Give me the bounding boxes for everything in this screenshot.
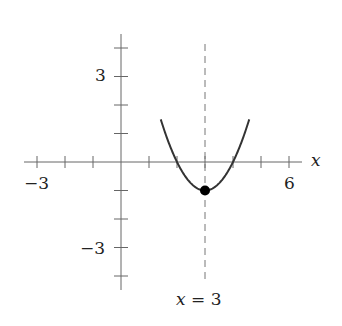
x-tick-label-6: 6 bbox=[284, 173, 295, 193]
symmetry-label-var: x bbox=[176, 289, 186, 309]
symmetry-label-value: = 3 bbox=[186, 289, 222, 309]
vertex-point bbox=[200, 186, 210, 196]
y-tick-label-3: 3 bbox=[95, 65, 106, 85]
symmetry-label: x = 3 bbox=[176, 289, 221, 309]
axes bbox=[24, 34, 302, 290]
x-axis-label: x bbox=[311, 150, 321, 170]
y-tick-label-neg3: −3 bbox=[80, 238, 105, 258]
x-tick-label-neg3: −3 bbox=[24, 173, 49, 193]
parabola-chart: x −3 6 3 −3 x = 3 bbox=[0, 0, 342, 326]
